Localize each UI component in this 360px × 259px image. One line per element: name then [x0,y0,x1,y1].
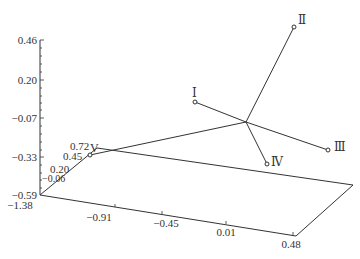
x-tick-label: −0.45 [153,217,179,229]
ray-II [246,27,294,122]
z-tick-label: −0.07 [12,112,38,124]
floor-right-edge [296,185,353,236]
point-I [193,100,197,104]
x-axis [40,195,296,236]
z-axis-labels: 0.46 0.20 −0.07 −0.33 −0.59 [12,34,38,201]
ray-V [90,122,246,155]
3d-star-plot: 0.46 0.20 −0.07 −0.33 −0.59 −0.06 0.20 0… [0,0,360,259]
point-label-V: V [90,141,99,155]
x-tick-label: 0.48 [281,238,301,250]
x-tick-label: −0.91 [86,211,111,223]
y-tick-label: 0.72 [70,140,89,152]
x-tick-label: −1.38 [7,199,33,211]
y-axis-labels: −0.06 0.20 0.45 0.72 [42,140,89,184]
floor-back-edge [97,148,353,185]
point-label-II: Ⅱ [298,13,306,27]
point-IV [265,162,269,166]
point-II [292,25,296,29]
z-tick-label: −0.33 [12,151,38,163]
x-axis-ticks [115,204,293,235]
point-label-I: Ⅰ [192,86,197,100]
z-tick-label: 0.46 [18,34,38,46]
plot-canvas: 0.46 0.20 −0.07 −0.33 −0.59 −0.06 0.20 0… [0,0,360,259]
z-axis-ticks [40,40,44,188]
x-axis-labels: −1.38 −0.91 −0.45 0.01 0.48 [7,199,301,250]
point-III [326,148,330,152]
x-tick-label: 0.01 [216,226,235,238]
point-label-III: Ⅲ [334,140,346,154]
floor-box [40,40,353,236]
point-labels: Ⅰ Ⅱ Ⅲ Ⅳ V [90,13,346,169]
star-rays [90,27,328,164]
data-points [88,25,330,166]
y-tick-label: 0.20 [50,163,70,175]
ray-I [195,102,246,122]
z-tick-label: 0.20 [18,74,38,86]
point-label-IV: Ⅳ [271,155,284,169]
